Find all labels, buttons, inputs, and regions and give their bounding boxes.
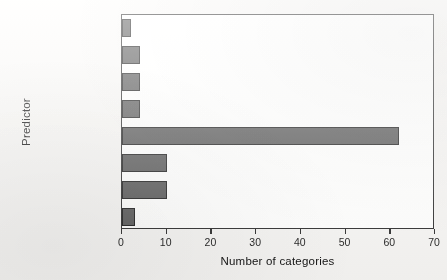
bar bbox=[122, 46, 140, 64]
bar bbox=[122, 19, 131, 37]
bar bbox=[122, 100, 140, 118]
x-axis-tick-mark bbox=[121, 229, 122, 234]
bar bbox=[122, 208, 135, 226]
x-axis-tick-label: 30 bbox=[249, 236, 261, 248]
x-axis-tick-label: 0 bbox=[118, 236, 124, 248]
bar-row bbox=[122, 100, 435, 118]
x-axis-tick-mark bbox=[345, 229, 346, 234]
x-axis-tick-mark bbox=[434, 229, 435, 234]
x-axis-title: Number of categories bbox=[121, 255, 434, 267]
bar-row bbox=[122, 127, 435, 145]
bar-row bbox=[122, 46, 435, 64]
x-axis-tick-label: 70 bbox=[428, 236, 440, 248]
bar bbox=[122, 73, 140, 91]
bar-chart-figure: genderageweightmedical specialtymax glu … bbox=[0, 0, 447, 280]
plot-area bbox=[121, 14, 434, 229]
bar-series bbox=[122, 15, 433, 228]
bar bbox=[122, 181, 167, 199]
x-axis-tick-mark bbox=[210, 229, 211, 234]
x-axis-tick-label: 40 bbox=[294, 236, 306, 248]
x-axis-tick-mark bbox=[300, 229, 301, 234]
bar-row bbox=[122, 73, 435, 91]
x-axis-tick-label: 60 bbox=[383, 236, 395, 248]
bar-row bbox=[122, 19, 435, 37]
x-axis-tick-label: 50 bbox=[339, 236, 351, 248]
bar bbox=[122, 154, 167, 172]
bar-row bbox=[122, 208, 435, 226]
x-axis-tick-mark bbox=[255, 229, 256, 234]
bar-row bbox=[122, 154, 435, 172]
x-axis-tick-label: 10 bbox=[160, 236, 172, 248]
x-axis-tick-mark bbox=[389, 229, 390, 234]
bar bbox=[122, 127, 399, 145]
y-axis-title: Predictor bbox=[20, 98, 32, 146]
x-axis-tick-label: 20 bbox=[205, 236, 217, 248]
x-axis-tick-mark bbox=[166, 229, 167, 234]
bar-row bbox=[122, 181, 435, 199]
